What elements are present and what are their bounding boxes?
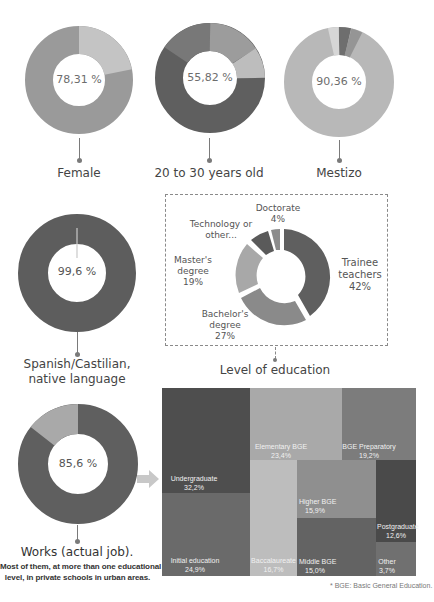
treemap-elementary-pct: 23,4% bbox=[252, 452, 310, 461]
treemap: Undergraduate 32,2% Initial education 24… bbox=[162, 388, 416, 576]
treemap-cell-higher-bge: Higher BGE 15,9% bbox=[297, 460, 376, 518]
treemap-cell-elementary-bge: Elementary BGE 23,4% bbox=[250, 388, 342, 460]
edu-master-name2: degree bbox=[168, 266, 218, 277]
female-value: 78,31 % bbox=[25, 73, 133, 86]
edu-doctorate-name: Doctorate bbox=[248, 203, 308, 214]
works-donut-chart: 85,6 % bbox=[18, 404, 138, 524]
age-caption: 20 to 30 years old bbox=[149, 166, 269, 180]
works-dot bbox=[75, 539, 80, 544]
treemap-middle-pct: 15,0% bbox=[299, 567, 331, 576]
edu-technology-name1: Technology or bbox=[186, 219, 256, 230]
edu-doctorate-pct: 4% bbox=[248, 214, 308, 225]
treemap-baccalaureate-name: Baccalaureate bbox=[251, 557, 296, 566]
education-dot bbox=[273, 358, 277, 362]
edu-trainee-name1: Trainee bbox=[335, 257, 385, 269]
education-title: Level of education bbox=[205, 363, 345, 377]
female-donut-chart: 78,31 % bbox=[25, 26, 133, 134]
treemap-cell-initial-education: Initial education 24,9% bbox=[162, 493, 250, 576]
treemap-cell-baccalaureate: Baccalaureate 16,7% bbox=[250, 460, 297, 576]
treemap-baccalaureate-pct: 16,7% bbox=[251, 566, 296, 575]
edu-master-pct: 19% bbox=[168, 277, 218, 288]
treemap-other-name: Other bbox=[377, 558, 397, 567]
age-stem bbox=[209, 138, 210, 160]
treemap-preparatory-pct: 19,2% bbox=[342, 452, 396, 461]
mestizo-value: 90,36 % bbox=[284, 75, 394, 88]
language-caption-line1: Spanish/Castilian, bbox=[2, 357, 152, 371]
works-sub-line1: Most of them, at more than one education… bbox=[0, 561, 155, 572]
language-stem bbox=[77, 332, 78, 354]
treemap-higher-pct: 15,9% bbox=[299, 507, 331, 516]
treemap-middle-name: Middle BGE bbox=[299, 558, 331, 567]
age-value: 55,82 % bbox=[155, 71, 265, 84]
mestizo-stem bbox=[339, 140, 340, 160]
edu-label-technology: Technology or other... bbox=[186, 219, 256, 241]
edu-label-doctorate: Doctorate 4% bbox=[248, 203, 308, 225]
mestizo-dot bbox=[337, 158, 342, 163]
female-stem bbox=[79, 138, 80, 160]
treemap-elementary-name: Elementary BGE bbox=[252, 443, 310, 452]
treemap-cell-undergraduate: Undergraduate 32,2% bbox=[162, 388, 250, 493]
treemap-initial-pct: 24,9% bbox=[164, 566, 226, 575]
treemap-undergraduate-name: Undergraduate bbox=[164, 475, 224, 484]
edu-bachelor-name2: degree bbox=[195, 320, 255, 331]
treemap-postgraduate-pct: 12,6% bbox=[377, 532, 415, 541]
edu-master-name1: Master's bbox=[168, 255, 218, 266]
language-caption-line2: native language bbox=[2, 372, 152, 386]
edu-label-trainee: Trainee teachers 42% bbox=[335, 257, 385, 293]
treemap-postgraduate-name: Postgraduate bbox=[377, 523, 415, 532]
works-value: 85,6 % bbox=[18, 457, 138, 470]
mestizo-donut-chart: 90,36 % bbox=[284, 27, 394, 137]
treemap-cell-other: Other 3,7% bbox=[376, 542, 416, 576]
treemap-cell-bge-preparatory: BGE Preparatory 19,2% bbox=[342, 388, 416, 460]
edu-trainee-pct: 42% bbox=[335, 281, 385, 293]
edu-label-bachelor: Bachelor's degree 27% bbox=[195, 309, 255, 342]
treemap-cell-middle-bge: Middle BGE 15,0% bbox=[297, 518, 376, 576]
works-caption: Works (actual job). bbox=[2, 545, 152, 559]
language-value: 99,6 % bbox=[18, 265, 136, 278]
mestizo-caption: Mestizo bbox=[289, 166, 389, 180]
edu-technology-name2: other... bbox=[186, 230, 256, 241]
age-dot bbox=[207, 158, 212, 163]
language-donut-chart: 99,6 % bbox=[18, 214, 136, 332]
female-caption: Female bbox=[29, 166, 129, 180]
edu-bachelor-name1: Bachelor's bbox=[195, 309, 255, 320]
treemap-other-pct: 3,7% bbox=[377, 567, 397, 576]
arrow-right-icon bbox=[137, 470, 159, 488]
treemap-cell-postgraduate: Postgraduate 12,6% bbox=[376, 460, 416, 542]
treemap-undergraduate-pct: 32,2% bbox=[164, 484, 224, 493]
female-dot bbox=[77, 158, 82, 163]
treemap-footnote: * BGE: Basic General Education. bbox=[330, 582, 432, 589]
treemap-initial-name: Initial education bbox=[164, 557, 226, 566]
edu-trainee-name2: teachers bbox=[335, 269, 385, 281]
treemap-higher-name: Higher BGE bbox=[299, 498, 331, 507]
edu-bachelor-pct: 27% bbox=[195, 331, 255, 342]
works-sub-line2: level, in private schools in urban areas… bbox=[0, 572, 155, 583]
edu-label-master: Master's degree 19% bbox=[168, 255, 218, 288]
age-donut-chart: 55,82 % bbox=[155, 23, 265, 133]
treemap-preparatory-name: BGE Preparatory bbox=[342, 443, 396, 452]
